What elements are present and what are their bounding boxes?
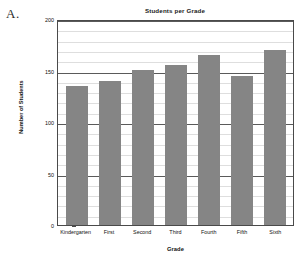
y-axis-ticks: 050100150200 [20, 20, 54, 226]
x-tick-text: Fifth [237, 229, 247, 235]
y-axis-label: Number of Students [18, 57, 24, 157]
x-tick-label: Sixth [264, 229, 286, 241]
x-tick-text: First [104, 229, 114, 235]
x-tick-label: Fifth [231, 229, 253, 241]
bar[interactable] [231, 76, 253, 225]
bar-chart: Students per Grade 050100150200 Number o… [0, 0, 301, 263]
bar[interactable] [264, 50, 286, 225]
x-tick-label: Fourth [198, 229, 220, 241]
y-tick-label: 200 [24, 17, 54, 23]
y-tick-mark [72, 226, 76, 227]
bar-series [58, 21, 293, 225]
y-tick-label: 100 [24, 120, 54, 126]
x-tick-label: Third [164, 229, 186, 241]
x-tick-text: Third [169, 229, 181, 235]
x-tick-text: Sixth [269, 229, 281, 235]
x-tick-text: Second [133, 229, 151, 235]
x-axis-label: Grade [57, 246, 294, 252]
x-axis-ticks: KindergartenFirstSecondThirdFourthFifthS… [57, 229, 294, 241]
y-tick-label: 150 [24, 69, 54, 75]
x-tick-text: Fourth [201, 229, 217, 235]
bar[interactable] [198, 55, 220, 225]
bar[interactable] [165, 65, 187, 225]
chart-title: Students per Grade [56, 7, 294, 14]
bar[interactable] [99, 81, 121, 225]
bar[interactable] [132, 70, 154, 225]
x-tick-label: Second [131, 229, 153, 241]
x-tick-label: First [98, 229, 120, 241]
y-tick-label: 0 [24, 223, 54, 229]
x-tick-text: Kindergarten [60, 229, 91, 235]
y-tick-label: 50 [24, 172, 54, 178]
bar[interactable] [66, 86, 88, 225]
plot-area [57, 20, 294, 226]
x-tick-label: Kindergarten [65, 229, 87, 241]
